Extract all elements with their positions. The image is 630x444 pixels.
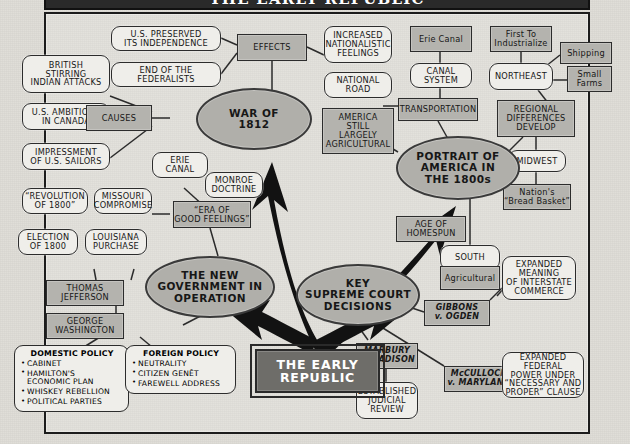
list-item: FAREWELL ADDRESS: [138, 380, 231, 389]
chart-title: THE EARLY REPUBLIC: [209, 0, 424, 8]
node-effects[interactable]: EFFECTS: [237, 34, 307, 61]
node-canal-system[interactable]: CANAL SYSTEM: [410, 63, 472, 88]
node-age-of-homespun[interactable]: AGE OF HOMESPUN: [396, 216, 466, 242]
node-revolution-of-1800[interactable]: “REVOLUTION OF 1800”: [22, 188, 88, 214]
node-america-still-largely-agricultural[interactable]: AMERICA STILL LARGELY AGRICULTURAL: [322, 108, 394, 154]
node-british-stirring-indian-attacks[interactable]: BRITISH STIRRING INDIAN ATTACKS: [22, 55, 110, 93]
list-item: CABINET: [27, 360, 124, 369]
node-expanded-interstate-commerce[interactable]: EXPANDED MEANING OF INTERSTATE COMMERCE: [502, 256, 576, 300]
node-small-farms[interactable]: Small Farms: [567, 66, 612, 92]
node-erie-canal-left[interactable]: ERIE CANAL: [152, 152, 208, 178]
hub-key-supreme-court-decisions[interactable]: KEY SUPREME COURT DECISIONS: [296, 264, 420, 326]
node-breadbasket[interactable]: Nation's “Bread Basket”: [503, 184, 571, 210]
node-preserved-independence[interactable]: U.S. PRESERVED ITS INDEPENDENCE: [111, 26, 221, 51]
diagram-page: THE EARLY REPUBLIC: [0, 0, 630, 444]
node-national-road[interactable]: NATIONAL ROAD: [324, 72, 392, 98]
node-thomas-jefferson[interactable]: THOMAS JEFFERSON: [46, 280, 124, 306]
node-monroe-doctrine[interactable]: MONROE DOCTRINE: [205, 172, 263, 198]
node-regional-differences-develop[interactable]: REGIONAL DIFFERENCES DEVELOP: [497, 100, 575, 137]
hub-war-of-1812[interactable]: WAR OF 1812: [196, 88, 312, 150]
node-agricultural[interactable]: Agricultural: [440, 266, 500, 290]
foreign-policy-list: NEUTRALITY CITIZEN GENÊT FAREWELL ADDRES…: [131, 360, 231, 388]
core-the-early-republic[interactable]: THE EARLY REPUBLIC: [255, 349, 380, 393]
chart-title-bar: THE EARLY REPUBLIC: [44, 0, 590, 10]
list-item: NEUTRALITY: [138, 360, 231, 369]
node-era-of-good-feelings[interactable]: “ERA OF GOOD FEELINGS”: [173, 201, 251, 228]
node-causes[interactable]: CAUSES: [86, 105, 152, 131]
node-missouri-compromise[interactable]: MISSOURI COMPROMISE: [94, 188, 152, 214]
list-item: HAMILTON'S ECONOMIC PLAN: [27, 370, 124, 387]
card-foreign-policy-heading: FOREIGN POLICY: [131, 349, 231, 358]
list-item: POLITICAL PARTIES: [27, 398, 124, 407]
node-erie-canal-top[interactable]: Erie Canal: [410, 26, 472, 52]
node-expanded-federal-power[interactable]: EXPANDED FEDERAL POWER UNDER “NECESSARY …: [502, 352, 584, 398]
node-election-of-1800[interactable]: ELECTION OF 1800: [18, 229, 78, 255]
node-george-washington[interactable]: GEORGE WASHINGTON: [46, 313, 124, 339]
node-gibbons-v-ogden[interactable]: GIBBONS v. OGDEN: [424, 300, 490, 326]
list-item: CITIZEN GENÊT: [138, 370, 231, 379]
card-domestic-policy[interactable]: DOMESTIC POLICY CABINET HAMILTON'S ECONO…: [14, 345, 129, 412]
node-first-to-industrialize[interactable]: First To Industrialize: [490, 26, 552, 52]
node-transportation[interactable]: TRANSPORTATION: [398, 98, 478, 121]
card-domestic-policy-heading: DOMESTIC POLICY: [20, 349, 124, 358]
node-increased-nationalistic-feelings[interactable]: INCREASED NATIONALISTIC FEELINGS: [324, 26, 392, 63]
node-louisiana-purchase[interactable]: LOUISIANA PURCHASE: [85, 229, 147, 255]
node-impressment-of-us-sailors[interactable]: IMPRESSMENT OF U.S. SAILORS: [22, 143, 110, 170]
node-shipping[interactable]: Shipping: [560, 42, 612, 64]
list-item: WHISKEY REBELLION: [27, 388, 124, 397]
hub-portrait-of-america[interactable]: PORTRAIT OF AMERICA IN THE 1800s: [396, 136, 520, 200]
card-foreign-policy[interactable]: FOREIGN POLICY NEUTRALITY CITIZEN GENÊT …: [125, 345, 236, 394]
domestic-policy-list: CABINET HAMILTON'S ECONOMIC PLAN WHISKEY…: [20, 360, 124, 407]
node-northeast[interactable]: NORTHEAST: [489, 63, 553, 90]
hub-new-government[interactable]: THE NEW GOVERNMENT IN OPERATION: [145, 256, 275, 318]
node-end-of-federalists[interactable]: END OF THE FEDERALISTS: [111, 62, 221, 87]
